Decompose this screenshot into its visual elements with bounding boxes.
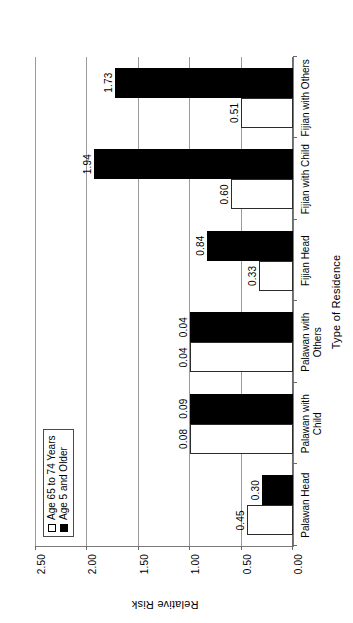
- plot-area: 0.000.501.001.502.002.500.450.30Palawan …: [36, 57, 294, 547]
- y-tick-mark-1.50: [138, 546, 139, 550]
- bar-value-label-1-0: 0.08: [178, 429, 189, 449]
- y-tick-mark-2.00: [86, 546, 87, 550]
- x-tick-mark-1: [293, 464, 297, 465]
- legend-swatch-hollow-icon: [48, 524, 56, 532]
- x-category-label-0: Palawan Head: [300, 462, 312, 548]
- bar-group-3: 0.330.84Fijian Head: [36, 220, 293, 302]
- bar-0-series-0[interactable]: 0.45: [247, 505, 293, 535]
- legend-item-1[interactable]: Age 5 and Older: [58, 435, 70, 532]
- y-axis-title-text: Relative Risk: [132, 599, 199, 611]
- x-axis-title: Type of Residence: [330, 57, 342, 547]
- chart-legend: Age 65 to 74 Years Age 5 and Older: [43, 429, 74, 537]
- bar-3-series-0[interactable]: 0.33: [259, 261, 293, 291]
- x-category-label-1: Palawan with Child: [300, 381, 324, 467]
- x-category-label-4: Fijian with Child: [300, 136, 312, 222]
- bar-1-series-0[interactable]: 0.08: [190, 424, 293, 454]
- bar-value-label-0-0: 0.45: [235, 510, 246, 530]
- bar-1-series-1[interactable]: 0.09: [190, 394, 293, 424]
- relative-risk-bar-chart: Relative Risk 0.000.501.001.502.002.500.…: [0, 0, 353, 623]
- legend-swatch-solid-icon: [60, 524, 68, 532]
- bar-value-label-5-1: 1.73: [103, 73, 114, 93]
- x-category-label-3: Fijian Head: [300, 218, 312, 304]
- bar-4-series-1[interactable]: 1.94: [94, 149, 293, 179]
- x-tick-mark-3: [293, 301, 297, 302]
- bar-group-5: 0.511.73Fijian with Others: [36, 57, 293, 139]
- y-tick-mark-1.00: [189, 546, 190, 550]
- x-tick-mark-5: [293, 138, 297, 139]
- legend-item-0[interactable]: Age 65 to 74 Years: [46, 435, 58, 532]
- bar-group-0: 0.450.30Palawan Head: [36, 465, 293, 547]
- bar-value-label-3-0: 0.33: [247, 266, 258, 286]
- bar-value-label-3-1: 0.84: [195, 236, 206, 256]
- bar-value-label-1-1: 0.09: [178, 399, 189, 419]
- legend-label-0: Age 65 to 74 Years: [46, 435, 58, 520]
- bar-value-label-2-1: 0.04: [178, 317, 189, 337]
- bar-group-4: 0.601.94Fijian with Child: [36, 139, 293, 221]
- bar-5-series-0[interactable]: 0.51: [241, 98, 293, 128]
- bar-5-series-1[interactable]: 1.73: [115, 68, 293, 98]
- bar-value-label-0-1: 0.30: [250, 480, 261, 500]
- bar-value-label-5-0: 0.51: [229, 103, 240, 123]
- bar-value-label-4-0: 0.60: [219, 184, 230, 204]
- bar-2-series-1[interactable]: 0.04: [190, 312, 293, 342]
- x-tick-mark-2: [293, 382, 297, 383]
- x-tick-mark-4: [293, 219, 297, 220]
- bar-value-label-4-1: 1.94: [82, 154, 93, 174]
- bar-3-series-1[interactable]: 0.84: [207, 231, 293, 261]
- legend-label-1: Age 5 and Older: [58, 447, 70, 520]
- bar-2-series-0[interactable]: 0.04: [190, 342, 293, 372]
- y-tick-mark-0.00: [292, 546, 293, 550]
- bar-value-label-2-0: 0.04: [178, 347, 189, 367]
- x-category-label-5: Fijian with Others: [300, 55, 312, 141]
- chart-rotation-wrapper: Relative Risk 0.000.501.001.502.002.500.…: [0, 0, 353, 623]
- bar-0-series-1[interactable]: 0.30: [262, 475, 293, 505]
- y-axis-title: Relative Risk: [36, 597, 294, 613]
- bar-group-2: 0.040.04Palawan with Others: [36, 302, 293, 384]
- y-tick-mark-0.50: [241, 546, 242, 550]
- bar-group-1: 0.080.09Palawan with Child: [36, 383, 293, 465]
- y-tick-mark-2.50: [35, 546, 36, 550]
- x-tick-mark-end: [293, 56, 297, 57]
- x-tick-mark-0: [293, 545, 297, 546]
- bar-4-series-0[interactable]: 0.60: [231, 179, 293, 209]
- x-category-label-2: Palawan with Others: [300, 299, 324, 385]
